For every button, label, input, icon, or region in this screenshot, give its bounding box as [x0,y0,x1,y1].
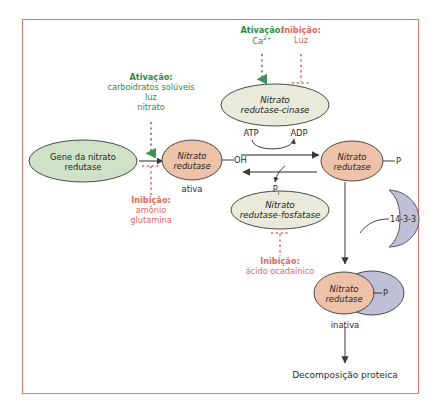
gene-inhibition-item-1: glutamina [111,215,191,225]
node-nr-inactive-line2: redutase [314,294,374,304]
label-atp: ATP [233,128,269,138]
node-nr-phospho-label: Nitrato redutase [322,152,382,172]
gene-activation-item-2: nitrato [101,102,201,112]
gene-inhibition-block: Inibição: amônio glutamina [111,195,191,225]
node-phosphatase-label: Nitrato redutase-fosfatase [230,200,330,221]
node-nr-phospho-line2: redutase [322,162,382,172]
gene-activation-item-0: carboidratos solúveis [101,82,201,92]
label-oh: OH [234,155,254,165]
diagram-frame [22,19,419,394]
label-pi: Pi [263,184,289,196]
phosphatase-inhibition-item-0: ácido ocadaínico [225,266,335,276]
label-pi-sub: i [278,189,280,196]
node-kinase-label: Nitrato redutase-cinase [225,95,325,116]
node-gene-line2: redutase [33,162,133,172]
phosphatase-inhibition-title: Inibição: [225,256,335,266]
node-nr-active-line2: redutase [162,161,222,171]
node-nr-active-label: Nitrato redutase [162,151,222,171]
node-gene-line1: Gene da nitrato [33,152,133,162]
node-kinase-line1: Nitrato [225,95,325,105]
gene-activation-title: Ativação: [101,72,201,82]
kinase-activation-item-main: Ca [252,36,263,46]
label-state-active: ativa [162,184,222,194]
node-gene-label: Gene da nitrato redutase [33,152,133,172]
node-nr-inactive-label: Nitrato redutase [314,284,374,304]
label-adp: ADP [281,128,317,138]
node-phosphatase-line1: Nitrato [230,200,330,210]
node-phosphatase-line2: redutase-fosfatase [230,210,330,220]
label-14-3-3: 14-3-3 [385,215,421,225]
label-p-inactive: P [383,288,397,298]
node-nr-phospho-line1: Nitrato [322,152,382,162]
diagram-canvas: Ativação: carboidratos solúveis luz nitr… [0,0,441,414]
kinase-inhibition-item-0: Luz [271,35,331,45]
label-p-phospho: P [396,156,410,166]
gene-inhibition-item-0: amônio [111,205,191,215]
label-outcome: Decomposição proteica [275,370,415,381]
node-nr-active-line1: Nitrato [162,151,222,161]
gene-activation-item-1: luz [101,92,201,102]
gene-activation-block: Ativação: carboidratos solúveis luz nitr… [101,72,201,112]
phosphatase-inhibition-block: Inibição: ácido ocadaínico [225,256,335,276]
gene-inhibition-title: Inibição: [111,195,191,205]
node-nr-inactive-line1: Nitrato [314,284,374,294]
node-kinase-line2: redutase-cinase [225,105,325,115]
kinase-inhibition-title: Inibição: [271,25,331,35]
label-state-inactive: inativa [315,320,375,330]
kinase-inhibition-block: Inibição: Luz [271,25,331,45]
